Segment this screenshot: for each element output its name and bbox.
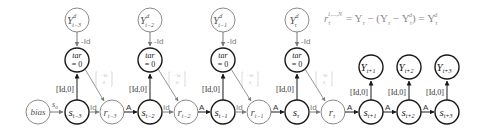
recurrent-network-diagram: rτ1,...,N= Yτ − (Yτ − Yτd) = Yτd bias s0… bbox=[0, 0, 484, 129]
edge-label-s0: s0 bbox=[52, 100, 58, 110]
matrix-label: −Id 0 bbox=[169, 72, 185, 86]
y-output-node: Yt+3 bbox=[435, 55, 459, 79]
r-node: rt−2 bbox=[174, 100, 198, 124]
svg-text:tar: tar bbox=[218, 51, 228, 60]
y-desired-node: Ydτ bbox=[285, 8, 309, 32]
y-output-node: Yt+2 bbox=[397, 55, 421, 79]
y-output-node: Yt+1 bbox=[359, 55, 383, 79]
s-node: st−1 bbox=[211, 100, 235, 124]
svg-text:rτ1,...,N= Yτ − (Yτ − Yτd) = Y: rτ1,...,N= Yτ − (Yτ − Yτd) = Yτd bbox=[324, 11, 438, 26]
svg-text:−Id: −Id bbox=[174, 73, 181, 78]
edge-label-id: Id bbox=[90, 103, 97, 112]
edge-label-id-zero: [Id,0] bbox=[388, 88, 406, 97]
matrix-label: −Id 0 bbox=[96, 72, 112, 86]
tar-node: tar = 0 bbox=[138, 48, 162, 72]
bias-node: bias bbox=[26, 100, 50, 124]
s-node: sτ bbox=[285, 100, 309, 124]
tar-node: tar = 0 bbox=[65, 48, 89, 72]
r-node: rt−3 bbox=[100, 100, 124, 124]
s-node: st−3 bbox=[65, 100, 89, 124]
svg-text:tar: tar bbox=[72, 51, 82, 60]
edge-label-id-zero: [Id,0] bbox=[350, 88, 368, 97]
y-desired-node: Ydt−1 bbox=[211, 8, 235, 32]
column-t-1: Ydt−1 -Id tar = 0 [Id,0] −Id 0 st−1 Id r… bbox=[202, 8, 284, 124]
edge-label-neg-id: -Id bbox=[301, 37, 310, 46]
edge-label-neg-id: -Id bbox=[81, 37, 90, 46]
equation: rτ1,...,N= Yτ − (Yτ − Yτd) = Yτd bbox=[324, 11, 438, 26]
svg-text:tar: tar bbox=[145, 51, 155, 60]
edge-label-id-zero: [Id,0] bbox=[56, 85, 74, 94]
svg-text:−Id: −Id bbox=[321, 73, 328, 78]
edge-label-neg-id: -Id bbox=[154, 37, 163, 46]
r-node: rt−1 bbox=[247, 100, 271, 124]
svg-text:0: 0 bbox=[249, 80, 252, 85]
column-t-2: Ydt−2 -Id tar = 0 [Id,0] −Id 0 st−2 Id r… bbox=[129, 8, 210, 124]
matrix-label: −Id 0 bbox=[316, 72, 332, 86]
y-desired-node: Ydt−2 bbox=[138, 8, 162, 32]
edge-label-id-zero: [Id,0] bbox=[426, 88, 444, 97]
matrix-label: −Id 0 bbox=[242, 72, 258, 86]
s-node: st−2 bbox=[138, 100, 162, 124]
s-node: st+2 bbox=[397, 100, 421, 124]
svg-text:= 0: = 0 bbox=[292, 60, 303, 69]
edge-label-id-zero: [Id,0] bbox=[129, 85, 147, 94]
s-node: st+3 bbox=[435, 100, 459, 124]
r-node: rτ bbox=[321, 100, 345, 124]
edge-label-a: A bbox=[423, 103, 429, 112]
column-t+3: Yt+3 [Id,0] st+3 bbox=[426, 55, 459, 124]
svg-text:= 0: = 0 bbox=[218, 60, 229, 69]
svg-text:tar: tar bbox=[292, 51, 302, 60]
edge-label-id-zero: [Id,0] bbox=[202, 85, 220, 94]
tar-node: tar = 0 bbox=[211, 48, 235, 72]
edge-label-id: Id bbox=[310, 103, 317, 112]
edge-label-id: Id bbox=[163, 103, 170, 112]
edge-label-a: A bbox=[347, 103, 353, 112]
edge-label-a: A bbox=[126, 103, 132, 112]
svg-text:= 0: = 0 bbox=[72, 60, 83, 69]
svg-text:−Id: −Id bbox=[247, 73, 254, 78]
edge-label-a: A bbox=[273, 103, 279, 112]
y-desired-node: Ydt−3 bbox=[65, 8, 89, 32]
edge-label-neg-id: -Id bbox=[227, 37, 236, 46]
tar-node: tar = 0 bbox=[285, 48, 309, 72]
edge-label-id-zero: [Id,0] bbox=[276, 85, 294, 94]
edge-label-a: A bbox=[199, 103, 205, 112]
svg-text:= 0: = 0 bbox=[145, 60, 156, 69]
edge-label-id: Id bbox=[236, 103, 243, 112]
svg-text:0: 0 bbox=[103, 80, 106, 85]
s-node: st+1 bbox=[359, 100, 383, 124]
svg-text:bias: bias bbox=[30, 107, 46, 117]
svg-text:−Id: −Id bbox=[101, 73, 108, 78]
edge-label-a: A bbox=[385, 103, 391, 112]
svg-text:0: 0 bbox=[176, 80, 179, 85]
svg-text:0: 0 bbox=[323, 80, 326, 85]
column-t-3: Ydt−3 -Id tar = 0 [Id,0] −Id 0 st−3 Id r… bbox=[56, 8, 137, 124]
column-tau: Ydτ -Id tar = 0 [Id,0] −Id 0 sτ Id rτ A bbox=[276, 8, 358, 124]
